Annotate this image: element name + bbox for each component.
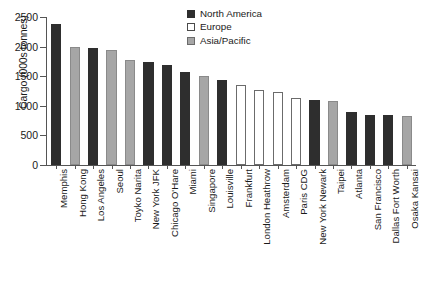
bar [328,101,338,165]
x-axis-label-text: San Francisco [373,169,383,230]
bar [125,60,135,165]
y-tick-label: 2000 [2,42,38,53]
y-tick-label: 500 [2,130,38,141]
y-tick-mark [40,17,46,18]
x-axis-label-text: Amsterdam [281,169,291,218]
x-axis-label: Toyko Narita [130,169,140,222]
x-axis-label: Amsterdam [278,169,288,218]
bar [162,65,172,165]
bar [383,115,393,165]
x-axis-label: Paris CDG [296,169,306,215]
y-tick-label: 2500 [2,12,38,23]
bar [254,90,264,165]
legend-swatch-icon [187,37,195,45]
y-tick-mark [40,76,46,77]
x-axis-label-text: New York JFK [152,169,162,229]
bar [106,50,116,165]
bar [309,100,319,165]
y-tick-label: 0 [2,160,38,171]
x-axis-label-text: Louisville [225,169,235,208]
x-axis-label-text: Singapore [207,169,217,213]
legend-item-na[interactable]: North America [187,8,297,20]
x-axis-label: Singapore [204,169,214,213]
x-axis-label: Dallas Fort Worth [388,169,398,243]
bar [291,98,301,165]
x-axis-label-text: Chicago O'Hare [170,169,180,237]
cargo-airports-bar-chart: Cargo (000s tonnes) 05001000150020002500… [0,0,421,284]
x-axis-label-text: Hong Kong [78,169,88,217]
bar [180,72,190,165]
chart-legend: North AmericaEuropeAsia/Pacific [187,8,297,49]
x-axis-label: Frankfurt [241,169,251,207]
bar [88,48,98,165]
x-axis-label-text: Paris CDG [299,169,309,215]
x-axis-label: Atlanta [351,169,361,199]
bar [365,115,375,165]
x-axis-label: San Francisco [370,169,380,230]
y-tick-label: 1000 [2,101,38,112]
legend-label: North America [200,9,262,19]
bar [346,112,356,165]
x-axis-label: Osaka Kansai [407,169,417,229]
x-axis-line [46,165,416,166]
y-tick-mark [40,135,46,136]
x-axis-label-text: Atlanta [355,169,365,199]
x-axis-label-text: Seoul [115,169,125,194]
x-axis-label-text: Taipei [336,169,346,194]
x-axis-label: New York Newark [315,169,325,245]
legend-label: Europe [200,22,232,32]
x-axis-label: Miami [185,169,195,195]
x-axis-label-text: Toyko Narita [133,169,143,222]
y-tick-label: 1500 [2,71,38,82]
bar [236,85,246,165]
x-axis-label: Los Angeles [93,169,103,221]
bar [217,80,227,165]
x-axis-label-text: New York Newark [318,169,328,245]
x-axis-label: New York JFK [148,169,158,229]
x-axis-label-text: Miami [189,169,199,195]
legend-label: Asia/Pacific [200,36,251,46]
x-axis-label: Chicago O'Hare [167,169,177,237]
x-axis-label: Hong Kong [75,169,85,217]
x-axis-label: London Heathrow [259,169,269,245]
x-axis-label: Louisville [222,169,232,208]
x-axis-label-text: Dallas Fort Worth [392,169,402,243]
y-tick-mark [40,106,46,107]
y-tick-mark [40,47,46,48]
y-tick-mark [40,165,46,166]
legend-item-eu[interactable]: Europe [187,22,297,34]
x-axis-label: Taipei [333,169,343,194]
bar [273,92,283,165]
legend-swatch-icon [187,10,195,18]
x-axis-label: Seoul [112,169,122,194]
legend-item-ap[interactable]: Asia/Pacific [187,35,297,47]
x-axis-label-text: Frankfurt [244,169,254,207]
bar [51,24,61,165]
x-axis-label-text: Osaka Kansai [410,169,420,229]
x-axis-labels: MemphisHong KongLos AngelesSeoulToyko Na… [46,169,418,277]
x-axis-label-text: London Heathrow [262,169,272,245]
bar [143,62,153,165]
legend-swatch-icon [187,23,195,31]
x-axis-label: Memphis [56,169,66,208]
bar [199,76,209,165]
x-axis-label-text: Los Angeles [96,169,106,221]
bar [70,47,80,165]
x-axis-label-text: Memphis [59,169,69,208]
bar [402,116,412,165]
